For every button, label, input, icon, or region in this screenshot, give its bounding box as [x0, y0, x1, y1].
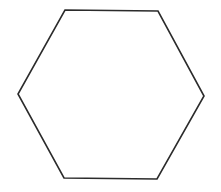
- hexagon-shape: [18, 10, 204, 179]
- hexagon-diagram: [0, 0, 221, 192]
- diagram-canvas: [0, 0, 221, 192]
